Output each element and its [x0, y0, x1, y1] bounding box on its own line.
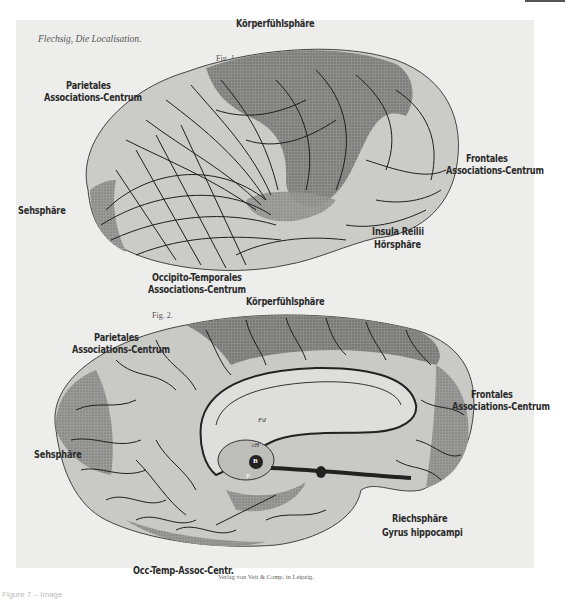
fig2-label-parietales-centrum: Associations-Centrum [72, 344, 170, 356]
fig2-label-parietales: Parietales [94, 332, 139, 344]
top-rule [525, 0, 565, 2]
mark-p: P [246, 472, 250, 480]
footer-caption: Figure 7 – Image [2, 590, 62, 599]
fig2-label-frontales: Frontales [471, 389, 513, 401]
fig2-label-frontales-centrum: Associations-Centrum [452, 401, 550, 413]
fig2-label-riechsphaere: Riechsphäre [392, 513, 447, 525]
mark-fd: Fd [258, 416, 266, 424]
fig2-label-gyrus-hippocampi: Gyrus hippocampi [382, 527, 463, 539]
fig2-label-sehsphaere: Sehsphäre [34, 449, 82, 461]
mark-b: B [253, 457, 258, 465]
fig2-label-koerperfuehlsphaere: Körperfühlsphäre [246, 296, 325, 308]
fig2-brain-medial [16, 20, 534, 568]
publisher-credit: Verlag von Veit & Comp. in Leipzig. [218, 573, 314, 580]
anatomical-plate: Flechsig, Die Localisation. Fig. 1. [16, 20, 534, 568]
mark-ch: cH [252, 442, 259, 448]
